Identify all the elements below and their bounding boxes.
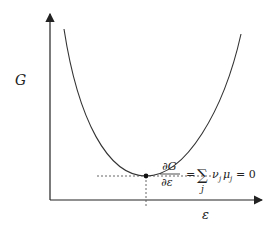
eq-equals: = [186,168,195,181]
y-axis-label: G [15,72,26,88]
x-axis-label: ε [202,207,209,222]
eq-term-nu: ν [212,168,219,181]
equilibrium-equation: ∂G ∂ε = ∑ j ν j μ j = 0 [160,160,256,194]
eq-numerator: ∂G [162,160,177,173]
gibbs-curve [64,29,241,176]
minimum-point [144,174,149,179]
eq-sum: ∑ [197,166,208,184]
eq-rhs: = 0 [236,168,256,181]
eq-sum-index: j [199,184,204,194]
gibbs-energy-diagram: G ε ∂G ∂ε = ∑ j ν j μ j = 0 [0,0,277,230]
eq-denominator: ∂ε [161,176,173,189]
